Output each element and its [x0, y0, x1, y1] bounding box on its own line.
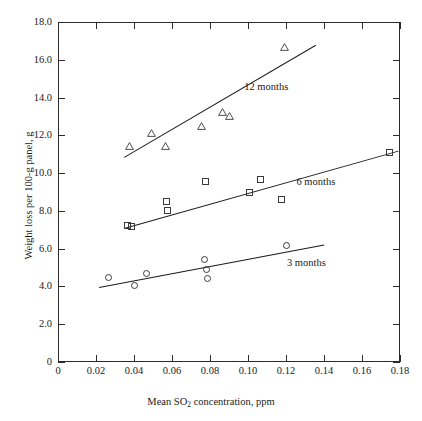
y-axis-tick-right: [393, 135, 400, 136]
data-point-triangle: [225, 112, 234, 120]
y-axis-tick-right: [393, 249, 400, 250]
x-axis-tick-top: [58, 22, 59, 29]
x-axis-tick: [286, 355, 287, 362]
y-axis-tick-label: 8.0: [0, 206, 52, 217]
y-axis-tick-label: 16.0: [0, 55, 52, 66]
y-axis-tick: [58, 249, 65, 250]
data-point-triangle: [147, 129, 156, 137]
x-axis-tick-top: [172, 22, 173, 29]
data-point-circle: [283, 242, 290, 249]
y-axis-tick-right: [393, 60, 400, 61]
series-label-3-months: 3 months: [287, 257, 326, 268]
x-axis-tick: [172, 355, 173, 362]
data-point-square: [128, 223, 135, 230]
x-axis-tick: [248, 355, 249, 362]
x-axis-tick-top: [400, 22, 401, 29]
chart-figure: Weight loss per 100-g panel, g Mean SO2 …: [0, 0, 422, 421]
x-axis-tick: [400, 355, 401, 362]
y-axis-tick-right: [393, 98, 400, 99]
x-axis-tick-label: 0.18: [377, 366, 422, 377]
x-axis-tick: [58, 355, 59, 362]
data-point-triangle: [161, 142, 170, 150]
x-axis-tick-top: [362, 22, 363, 29]
series-label-6-months: 6 months: [296, 176, 335, 187]
data-point-square: [246, 189, 253, 196]
y-axis-tick: [58, 173, 65, 174]
data-point-square: [386, 149, 393, 156]
data-point-square: [164, 207, 171, 214]
data-point-circle: [203, 266, 210, 273]
data-point-circle: [131, 282, 138, 289]
data-point-square: [257, 176, 264, 183]
y-axis-tick-label: 2.0: [0, 319, 52, 330]
data-point-square: [202, 178, 209, 185]
y-axis-tick-right: [393, 211, 400, 212]
y-axis-tick-label: 10.0: [0, 168, 52, 179]
x-axis-tick: [324, 355, 325, 362]
x-axis-tick-top: [210, 22, 211, 29]
data-point-circle: [201, 256, 208, 263]
x-axis-tick-top: [134, 22, 135, 29]
y-axis-tick-label: 14.0: [0, 93, 52, 104]
y-axis-tick: [58, 135, 65, 136]
y-axis-tick-label: 6.0: [0, 244, 52, 255]
data-point-triangle: [280, 43, 289, 51]
x-axis-tick: [362, 355, 363, 362]
x-axis-tick: [134, 355, 135, 362]
x-axis-label: Mean SO2 concentration, ppm: [0, 396, 422, 409]
y-axis-tick-right: [393, 22, 400, 23]
data-point-triangle: [197, 122, 206, 130]
x-axis-tick-top: [96, 22, 97, 29]
y-axis-tick-label: 18.0: [0, 17, 52, 28]
data-point-triangle: [125, 142, 134, 150]
y-axis-tick: [58, 60, 65, 61]
y-axis-tick-right: [393, 173, 400, 174]
y-axis-tick: [58, 22, 65, 23]
y-axis-tick: [58, 324, 65, 325]
y-axis-tick-label: 12.0: [0, 130, 52, 141]
y-axis-tick-right: [393, 362, 400, 363]
x-axis-tick: [210, 355, 211, 362]
data-point-circle: [204, 275, 211, 282]
y-axis-tick: [58, 98, 65, 99]
data-point-circle: [143, 270, 150, 277]
data-point-square: [278, 196, 285, 203]
y-axis-tick: [58, 286, 65, 287]
x-axis-tick-top: [248, 22, 249, 29]
x-axis-tick-top: [286, 22, 287, 29]
x-axis-tick: [96, 355, 97, 362]
y-axis-tick-right: [393, 286, 400, 287]
data-point-square: [163, 198, 170, 205]
series-label-12-months: 12 months: [244, 81, 288, 92]
y-axis-tick: [58, 362, 65, 363]
x-axis-tick-top: [324, 22, 325, 29]
y-axis-tick-right: [393, 324, 400, 325]
plot-area-frame: [58, 22, 400, 362]
y-axis-tick: [58, 211, 65, 212]
y-axis-tick-label: 4.0: [0, 281, 52, 292]
